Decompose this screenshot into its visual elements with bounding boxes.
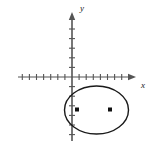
x-axis-label: x [140,80,145,90]
focus-left-marker [75,108,79,112]
focus-right-marker [108,108,112,112]
figure-container: x y [0,0,150,147]
ellipse-curve [65,86,129,134]
x-axis [18,74,136,80]
focus-points [75,108,112,112]
ellipse-shape [65,86,129,134]
x-axis-arrowhead-icon [128,74,136,80]
coordinate-plane-figure: x y [0,0,150,147]
y-axis-label: y [79,3,84,13]
y-axis-arrowhead-icon [69,12,75,20]
